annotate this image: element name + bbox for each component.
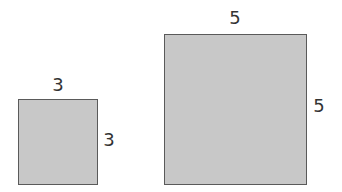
small-square-top-label: 3: [48, 76, 68, 94]
small-square-side-label: 3: [101, 131, 117, 149]
small-square: [18, 99, 98, 185]
large-square-side-label: 5: [310, 97, 328, 115]
large-square-top-label: 5: [226, 9, 244, 27]
large-square: [164, 34, 307, 185]
